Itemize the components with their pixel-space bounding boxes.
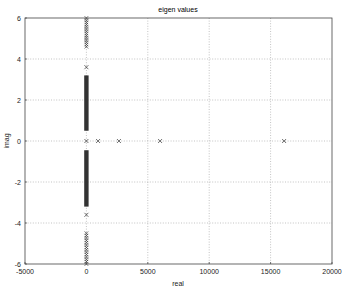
y-tick-label: 6 (17, 15, 21, 22)
grid-lines (25, 18, 332, 264)
y-tick-label: 4 (17, 56, 21, 63)
dense-marker-band (84, 75, 88, 130)
x-tick-label: 0 (84, 268, 88, 275)
y-tick-label: -2 (15, 179, 21, 186)
y-tick-label: 0 (17, 138, 21, 145)
x-tick-label: -5000 (16, 268, 34, 275)
eigenvalue-chart: eigen values -500005000100001500020000 6… (0, 0, 348, 291)
y-tick-label: -6 (15, 261, 21, 268)
x-tick-label: 10000 (199, 268, 219, 275)
x-marker (158, 139, 162, 143)
y-axis-label: imag (3, 133, 11, 148)
x-tick-label: 20000 (322, 268, 342, 275)
x-marker (117, 139, 121, 143)
y-tick-label: 2 (17, 97, 21, 104)
chart-title: eigen values (158, 6, 198, 14)
y-tick-label: -4 (15, 220, 21, 227)
x-axis-label: real (172, 280, 184, 287)
x-marker (96, 139, 100, 143)
x-tick-label: 15000 (261, 268, 281, 275)
data-points (84, 16, 286, 266)
dense-marker-band (84, 150, 88, 206)
x-tick-label: 5000 (140, 268, 156, 275)
